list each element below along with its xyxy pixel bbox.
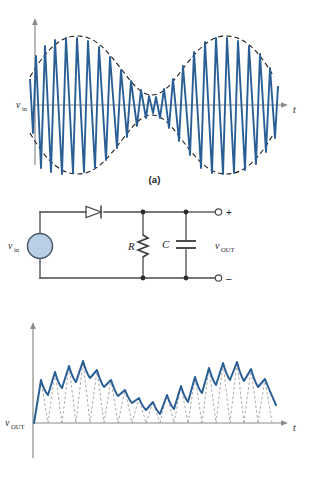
panel-c-output-ripple: [34, 361, 276, 423]
figure-container: v in t (a): [0, 0, 309, 482]
svg-text:v: v: [8, 240, 13, 251]
panel-a-x-axis-label: t: [293, 104, 296, 115]
capacitor-label: C: [162, 238, 170, 250]
capacitor-symbol: [176, 241, 196, 248]
svg-text:in: in: [22, 105, 28, 112]
panel-c-chart: v OUT t: [0, 308, 309, 482]
voltage-source-symbol: [28, 234, 53, 259]
output-voltage-label: v OUT: [215, 240, 235, 253]
terminal-plus-label: +: [226, 207, 232, 218]
panel-a-input-waveform: v in t (a): [0, 0, 309, 196]
panel-a-caption: (a): [0, 174, 309, 185]
panel-c-axes: [30, 322, 288, 458]
diode-symbol: [86, 206, 101, 219]
svg-text:v: v: [16, 99, 21, 110]
terminal-minus-label: –: [226, 273, 232, 284]
svg-text:v: v: [215, 240, 220, 251]
svg-text:OUT: OUT: [11, 423, 25, 430]
panel-c-output-waveform: v OUT t (c): [0, 308, 309, 482]
svg-text:v: v: [5, 417, 10, 428]
panel-a-input-sawtooth: [30, 38, 278, 174]
svg-text:in: in: [14, 246, 20, 253]
output-terminal-negative: –: [215, 273, 232, 284]
output-terminal-positive: +: [215, 207, 232, 218]
resistor-label: R: [127, 240, 135, 252]
panel-b-schematic: v in R C: [0, 196, 309, 308]
panel-a-chart: v in t: [0, 0, 309, 196]
panel-c-y-axis-label: v OUT: [5, 417, 25, 430]
panel-c-x-axis-label: t: [293, 422, 296, 433]
panel-a-envelope-lower: [30, 115, 274, 174]
panel-b-circuit: v in R C: [0, 196, 309, 308]
panel-a-y-axis-label: v in: [16, 99, 28, 112]
svg-text:OUT: OUT: [221, 246, 235, 253]
voltage-source-label: v in: [8, 240, 20, 253]
resistor-symbol: [138, 235, 148, 257]
